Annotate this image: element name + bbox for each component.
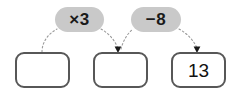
result-box-3-value: 13 bbox=[188, 61, 209, 80]
function-machine-diagram: ×3 −8 13 bbox=[0, 0, 236, 90]
connector-op1-to-box2 bbox=[101, 29, 118, 49]
connector-op2-to-box3 bbox=[179, 29, 197, 48]
operation-label-multiply: ×3 bbox=[55, 7, 104, 32]
result-box-3[interactable]: 13 bbox=[171, 52, 226, 88]
connector-box2-to-op2 bbox=[121, 29, 133, 49]
operation-label-subtract: −8 bbox=[131, 7, 181, 32]
input-box-1[interactable] bbox=[15, 52, 70, 88]
connector-box1-to-op1 bbox=[42, 29, 57, 52]
input-box-2[interactable] bbox=[93, 52, 148, 88]
